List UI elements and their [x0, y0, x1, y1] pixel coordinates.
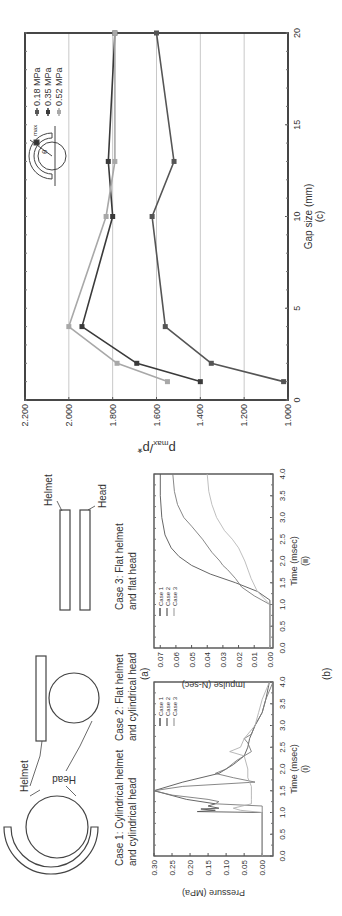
series-line-0-52-mpa — [69, 33, 168, 382]
legend-marker — [57, 110, 61, 114]
data-point-marker — [104, 214, 109, 219]
cylindrical-head-shape — [26, 796, 88, 858]
data-point-marker — [165, 379, 170, 384]
chart-pressure-vs-time: 0.00.51.01.52.02.53.03.54.00.000.050.100… — [150, 676, 310, 898]
x-axis-label: Time (msec) — [289, 536, 299, 586]
data-point-marker — [112, 159, 117, 164]
head-label-3: Head — [97, 484, 108, 508]
legend-entry: 0.18 MPa — [32, 67, 42, 106]
legend-entry: 0.35 MPa — [43, 67, 53, 106]
x-tick-label: 0.5 — [278, 828, 287, 840]
data-point-marker — [209, 361, 214, 366]
inset-pmax-marker — [34, 140, 39, 145]
data-point-marker — [112, 31, 117, 36]
y-tick-label: 0.15 — [204, 859, 213, 875]
legend-marker — [35, 110, 39, 114]
data-point-marker — [110, 214, 115, 219]
x-axis-label: Time (msec) — [289, 744, 299, 794]
chart-impulse-vs-time: 0.00.51.01.52.02.53.03.54.00.000.010.020… — [154, 468, 310, 690]
helmet-label-1: Helmet — [19, 760, 30, 792]
case3-caption-line2: and flat head — [127, 552, 138, 610]
x-tick-label: 0.0 — [278, 850, 287, 862]
y-tick-label: 1.600 — [152, 404, 162, 427]
helmet-label-3: Helmet — [43, 474, 54, 506]
x-tick-label: 3.0 — [278, 511, 287, 523]
x-tick-label: 2.5 — [278, 741, 287, 753]
case3-diagram — [60, 510, 90, 610]
data-point-marker — [163, 324, 168, 329]
chart-sublabel: (ii) — [300, 556, 310, 566]
flat-helmet-shape-3 — [60, 510, 70, 610]
series-line-case-2 — [173, 474, 270, 648]
cylindrical-head-shape-2 — [49, 673, 99, 723]
case3-caption-line1: Case 3: Flat helmet — [114, 523, 125, 610]
panel-label-b: (b) — [321, 668, 332, 680]
x-tick-label: 20 — [292, 28, 302, 38]
series-line-0-18-mpa — [152, 33, 284, 382]
legend-entry: Case 1 — [158, 586, 164, 606]
flat-head-shape — [80, 510, 90, 610]
x-tick-label: 10 — [292, 211, 302, 221]
helmet-leader-lines — [30, 741, 42, 796]
series-line-0-35-mpa — [82, 33, 200, 382]
data-point-marker — [172, 159, 177, 164]
y-tick-label: 0.06 — [172, 651, 181, 667]
x-tick-label: 2.5 — [278, 533, 287, 545]
x-tick-label: 3.5 — [278, 490, 287, 502]
y-tick-label: 0.02 — [235, 651, 244, 667]
data-point-marker — [150, 214, 155, 219]
x-tick-label: 2.0 — [278, 763, 287, 775]
x-tick-label: 2.0 — [278, 555, 287, 567]
legend-entry: Case 2 — [165, 586, 171, 606]
y-tick-label: 0.10 — [222, 859, 231, 875]
x-tick-label: 15 — [292, 120, 302, 130]
y-tick-label: 0.00 — [266, 651, 275, 667]
y-tick-label: 0.05 — [240, 859, 249, 875]
y-tick-label: 0.25 — [168, 859, 177, 875]
inset-pmax-label: max — [32, 125, 38, 136]
x-tick-label: 0.5 — [278, 620, 287, 632]
data-point-marker — [66, 324, 71, 329]
y-tick-label: 0.03 — [219, 651, 228, 667]
figure-canvas: Helmet Head Helmet Head Case 1: Cylindri… — [0, 0, 342, 916]
inset-helmet-arc — [29, 133, 52, 179]
y-axis-label: Pressure (MPa) — [182, 888, 245, 898]
y-tick-label: 2.000 — [64, 404, 74, 427]
case1-diagram — [4, 796, 98, 874]
y-tick-label: 0.30 — [150, 859, 159, 875]
y-tick-label: 1.800 — [108, 404, 118, 427]
y-tick-label: 1.200 — [239, 404, 249, 427]
data-point-marker — [134, 361, 139, 366]
x-tick-label: 1.0 — [278, 806, 287, 818]
case2-caption-line2: and cylindrical head — [127, 653, 138, 741]
data-point-marker — [198, 379, 203, 384]
legend-entry: Case 3 — [172, 696, 178, 716]
y-tick-label: 0.07 — [156, 651, 165, 667]
y-axis-label: pmax/p* — [137, 439, 175, 456]
y-tick-label: 0.20 — [186, 859, 195, 875]
legend-marker — [46, 110, 50, 114]
data-point-marker — [79, 324, 84, 329]
y-tick-label: 1.000 — [283, 404, 293, 427]
chart-sublabel: (c) — [314, 211, 325, 223]
x-axis-label: Gap size (mm) — [303, 184, 314, 250]
inset-theta-label: θ — [40, 149, 49, 154]
plot-frame — [154, 474, 273, 648]
x-tick-label: 4.0 — [278, 468, 287, 480]
case2-caption-line1: Case 2: Flat helmet — [114, 654, 125, 741]
data-point-marker — [154, 31, 159, 36]
case1-caption-line1: Case 1: Cylindrical helmet — [114, 750, 125, 866]
legend-entry: 0.52 MPa — [54, 67, 64, 106]
x-tick-label: 1.5 — [278, 785, 287, 797]
panel-label-a: (a) — [139, 668, 150, 680]
head-label-1: Head — [52, 774, 76, 785]
series-line-case-3 — [207, 474, 270, 648]
data-point-marker — [281, 379, 286, 384]
case2-diagram — [36, 656, 99, 741]
x-tick-label: 0.0 — [278, 642, 287, 654]
panel-a-diagrams — [4, 501, 99, 874]
chart-pmax-vs-gap: 051015201.0001.2001.4001.6001.8002.0002.… — [20, 28, 325, 456]
y-tick-label: 0.01 — [250, 651, 259, 667]
data-point-marker — [106, 159, 111, 164]
x-tick-label: 3.0 — [278, 719, 287, 731]
